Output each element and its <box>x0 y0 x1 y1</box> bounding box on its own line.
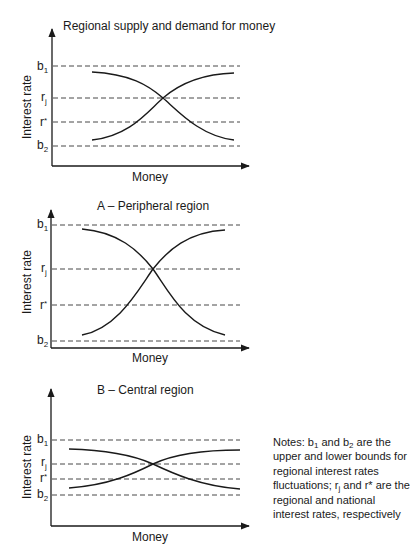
label-rj: rj <box>41 90 47 106</box>
x-axis-title: Money <box>132 351 168 365</box>
label-b2: b2 <box>37 138 49 154</box>
panel-regional: Regional supply and demand for money b1 … <box>20 19 275 184</box>
y-axis-title: Interest rate <box>20 250 34 314</box>
panel-title: B – Central region <box>97 383 194 397</box>
label-rstar: r* <box>40 115 47 129</box>
label-b1: b1 <box>37 217 49 233</box>
label-rstar: r* <box>40 298 47 312</box>
supply-curve <box>82 230 225 335</box>
label-b1: b1 <box>37 432 49 448</box>
y-axis-title: Interest rate <box>20 435 34 499</box>
label-rstar: r* <box>40 471 47 485</box>
x-axis-title: Money <box>132 530 168 544</box>
x-axis-title: Money <box>132 170 168 184</box>
panel-title: A – Peripheral region <box>97 199 209 213</box>
supply-curve <box>92 73 234 140</box>
label-rj: rj <box>41 455 47 471</box>
demand-curve <box>82 229 225 335</box>
label-b2: b2 <box>37 487 49 503</box>
label-b2: b2 <box>37 333 49 349</box>
label-rj: rj <box>41 261 47 277</box>
panel-central: B – Central region b1 rj r* b2 Interest … <box>20 383 249 544</box>
label-b1: b1 <box>37 59 49 75</box>
notes-text: Notes: b1 and b2 are the upper and lower… <box>273 435 413 521</box>
panel-peripheral: A – Peripheral region b1 rj r* b2 Intere… <box>20 199 249 365</box>
y-axis-title: Interest rate <box>20 75 34 139</box>
demand-curve <box>69 449 240 489</box>
reference-lines <box>52 225 240 341</box>
supply-curve <box>69 450 240 488</box>
panel-title: Regional supply and demand for money <box>63 19 275 33</box>
demand-curve <box>92 72 234 140</box>
